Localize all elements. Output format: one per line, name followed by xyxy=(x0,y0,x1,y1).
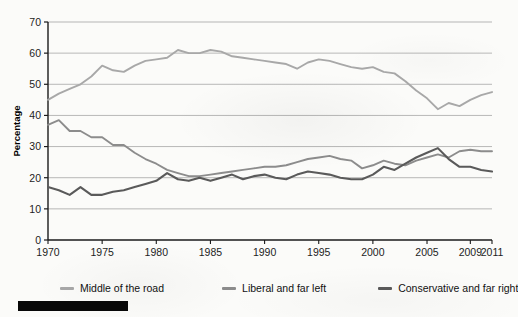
legend-item-label: Conservative and far right xyxy=(398,282,518,294)
legend-item-conservative-and-far-right: Conservative and far right xyxy=(378,282,518,294)
legend-item-label: Liberal and far left xyxy=(242,282,326,294)
x-axis-tick-label: 2011 xyxy=(481,246,504,258)
y-axis-title: Percentage xyxy=(11,105,22,156)
series-line-middle-of-the-road xyxy=(48,50,492,109)
y-axis-tick-label: 30 xyxy=(29,140,41,152)
y-axis-tick-label: 70 xyxy=(29,16,41,28)
x-axis-tick-label: 1980 xyxy=(145,246,169,258)
x-axis-tick-label: 2009 xyxy=(459,246,483,258)
legend-item-middle-of-the-road: Middle of the road xyxy=(60,282,164,294)
x-axis-tick-label: 1975 xyxy=(90,246,114,258)
legend-swatch-icon xyxy=(378,287,392,290)
x-axis-title: Year xyxy=(260,261,280,262)
x-axis-tick-label: 1970 xyxy=(36,246,60,258)
legend-swatch-icon xyxy=(60,287,74,290)
legend-swatch-icon xyxy=(222,287,236,290)
x-axis-tick-label: 1990 xyxy=(253,246,277,258)
y-axis-tick-label: 0 xyxy=(35,234,41,246)
x-axis-tick-label: 2005 xyxy=(415,246,439,258)
series-line-conservative-and-far-right xyxy=(48,148,492,195)
y-axis-tick-label: 40 xyxy=(29,109,41,121)
y-axis-tick-label: 60 xyxy=(29,47,41,59)
legend-item-label: Middle of the road xyxy=(80,282,164,294)
chart-legend: Middle of the road Liberal and far left … xyxy=(0,278,510,298)
x-axis-tick-label: 1985 xyxy=(199,246,223,258)
series-line-liberal-and-far-left xyxy=(48,120,492,176)
line-chart: 0102030405060701970197519801985199019952… xyxy=(0,0,510,260)
chart-plot-area: 0102030405060701970197519801985199019952… xyxy=(0,0,510,262)
y-axis-tick-label: 50 xyxy=(29,78,41,90)
scan-artifact-black-bar xyxy=(18,301,128,311)
y-axis-tick-label: 20 xyxy=(29,172,41,184)
x-axis-tick-label: 2000 xyxy=(361,246,385,258)
x-axis-tick-label: 1995 xyxy=(307,246,331,258)
legend-item-liberal-and-far-left: Liberal and far left xyxy=(222,282,326,294)
y-axis-tick-label: 10 xyxy=(29,203,41,215)
